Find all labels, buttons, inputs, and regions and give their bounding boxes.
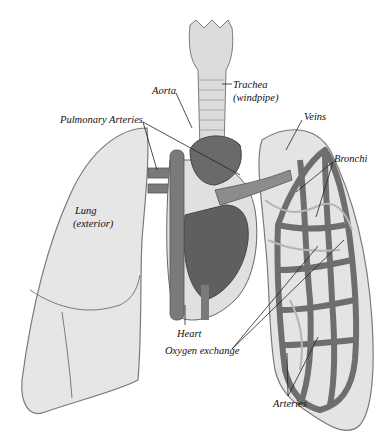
- lung-sublabel: (exterior): [73, 218, 113, 229]
- oxygen-exchange-label: Oxygen exchange: [165, 345, 239, 356]
- heart-label: Heart: [177, 328, 202, 339]
- trachea-label: Trachea: [233, 79, 267, 90]
- veins-label: Veins: [304, 111, 326, 122]
- lung-label: Lung: [75, 205, 97, 216]
- trachea: [189, 20, 232, 150]
- bronchi-label: Bronchi: [334, 153, 367, 164]
- lung-anatomy-diagram: Aorta Trachea (windpipe) Pulmonary Arter…: [0, 0, 392, 444]
- arteries-label: Arteries: [273, 398, 307, 409]
- aorta-label: Aorta: [152, 85, 176, 96]
- anatomy-illustration: [0, 0, 392, 444]
- trachea-sublabel: (windpipe): [233, 92, 279, 103]
- pulmonary-arteries-label: Pulmonary Arteries: [60, 114, 143, 125]
- left-lung: [22, 128, 148, 413]
